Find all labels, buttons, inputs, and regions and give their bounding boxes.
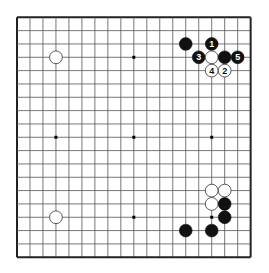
star-point <box>132 56 135 59</box>
white-stone <box>205 51 218 64</box>
white-stone <box>205 198 218 211</box>
white-stone: 4 <box>205 64 218 77</box>
star-point <box>210 136 213 139</box>
black-stone: 5 <box>231 51 244 64</box>
star-point <box>54 136 57 139</box>
stone-circle <box>50 211 63 224</box>
stone-circle <box>218 211 231 224</box>
stone-circle <box>218 184 231 197</box>
black-stone <box>179 38 192 51</box>
black-stone <box>218 51 231 64</box>
stone-circle <box>205 184 218 197</box>
stone-circle <box>205 51 218 64</box>
stone-circle <box>218 198 231 211</box>
white-stone <box>50 51 63 64</box>
stone-circle <box>218 51 231 64</box>
star-point <box>210 216 213 219</box>
move-number-label: 2 <box>222 66 227 76</box>
move-number-label: 1 <box>209 39 214 49</box>
white-stone <box>205 184 218 197</box>
stone-circle <box>205 198 218 211</box>
star-point <box>132 136 135 139</box>
black-stone <box>179 224 192 237</box>
star-point <box>132 216 135 219</box>
black-stone <box>205 224 218 237</box>
stone-circle <box>50 51 63 64</box>
move-number-label: 4 <box>209 66 214 76</box>
stone-circle <box>179 38 192 51</box>
black-stone <box>218 198 231 211</box>
move-number-label: 5 <box>235 52 240 62</box>
black-stone: 1 <box>205 38 218 51</box>
move-number-label: 3 <box>196 52 201 62</box>
white-stone <box>50 211 63 224</box>
go-board: 13542 <box>0 0 269 273</box>
stone-circle <box>205 224 218 237</box>
white-stone: 2 <box>218 64 231 77</box>
black-stone <box>218 211 231 224</box>
black-stone: 3 <box>192 51 205 64</box>
white-stone <box>218 184 231 197</box>
stone-circle <box>179 224 192 237</box>
